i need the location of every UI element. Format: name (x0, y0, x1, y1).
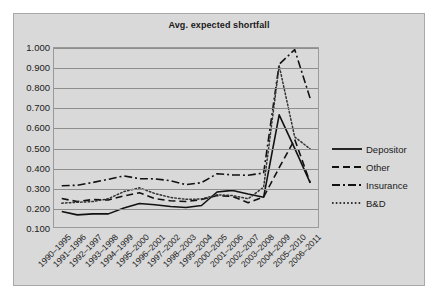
legend-label: Other (366, 162, 390, 173)
legend-key-dotted (332, 198, 362, 208)
legend-label: B&D (366, 198, 386, 209)
y-axis-tick-label: 0.600 (16, 122, 50, 133)
y-axis-tick-label: 0.200 (16, 202, 50, 213)
y-axis-tick-label: 0.700 (16, 102, 50, 113)
gridline (54, 189, 318, 190)
y-axis-tick-label: 0.500 (16, 142, 50, 153)
gridline (54, 209, 318, 210)
series-lines (54, 48, 318, 227)
legend-key-dashdot (332, 180, 362, 190)
y-axis-tick-label: 1.000 (16, 42, 50, 53)
gridline (54, 68, 318, 69)
y-axis-tick-label: 0.400 (16, 162, 50, 173)
series-line-b-d (62, 66, 310, 204)
gridline (54, 48, 318, 49)
plot-area (53, 47, 319, 228)
x-axis: 1990–19951991–19961992–19971993–19981994… (53, 228, 319, 300)
legend-item-depositor[interactable]: Depositor (332, 140, 427, 158)
chart-legend: DepositorOtherInsuranceB&D (332, 140, 427, 212)
gridline (54, 108, 318, 109)
legend-item-other[interactable]: Other (332, 158, 427, 176)
legend-key-solid (332, 144, 362, 154)
legend-key-dashed (332, 162, 362, 172)
legend-item-b-d[interactable]: B&D (332, 194, 427, 212)
gridline (54, 88, 318, 89)
screenshot-root: Avg. expected shortfall 1.0000.9000.8000… (0, 0, 441, 302)
legend-label: Depositor (366, 144, 407, 155)
gridline (54, 149, 318, 150)
y-axis-tick-label: 0.900 (16, 62, 50, 73)
chart-panel: Avg. expected shortfall 1.0000.9000.8000… (13, 13, 425, 286)
chart-title: Avg. expected shortfall (14, 20, 424, 30)
gridline (54, 128, 318, 129)
legend-label: Insurance (366, 180, 408, 191)
y-axis-tick-label: 0.800 (16, 82, 50, 93)
legend-item-insurance[interactable]: Insurance (332, 176, 427, 194)
y-axis-tick-label: 0.300 (16, 182, 50, 193)
gridline (54, 169, 318, 170)
y-axis-tick-label: 0.100 (16, 223, 50, 234)
y-axis: 1.0000.9000.8000.7000.6000.5000.4000.300… (14, 47, 50, 228)
